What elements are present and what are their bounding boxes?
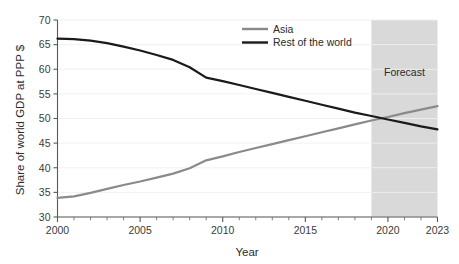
y-axis-tick-label: 55 [39,88,51,100]
y-axis-tick-label: 65 [39,38,51,50]
legend-label: Rest of the world [273,36,352,48]
y-axis-tick-label: 70 [39,14,51,26]
x-axis-title: Year [235,246,258,258]
x-axis-tick-label: 2010 [211,224,235,236]
x-axis-tick-label: 2023 [426,224,450,236]
x-axis-tick-label: 2015 [294,224,318,236]
chart-container: 303540455055606570 200020052010201520202… [0,0,459,264]
x-axis-tick-label: 2005 [128,224,152,236]
y-axis-tick-label: 40 [39,162,51,174]
y-axis-tick-label: 35 [39,186,51,198]
legend-label: Asia [273,23,294,35]
y-axis-tick-label: 45 [39,137,51,149]
line-chart: 303540455055606570 200020052010201520202… [0,0,459,264]
x-axis-tick-label: 2000 [46,224,70,236]
forecast-label: Forecast [384,66,425,78]
y-axis-tick-label: 30 [39,211,51,223]
x-axis-tick-label: 2020 [376,224,400,236]
y-axis-tick-label: 60 [39,63,51,75]
y-axis-tick-label: 50 [39,112,51,124]
y-axis-title: Share of world GDP at PPP $ [14,44,26,195]
forecast-label-group: Forecast [384,66,425,78]
